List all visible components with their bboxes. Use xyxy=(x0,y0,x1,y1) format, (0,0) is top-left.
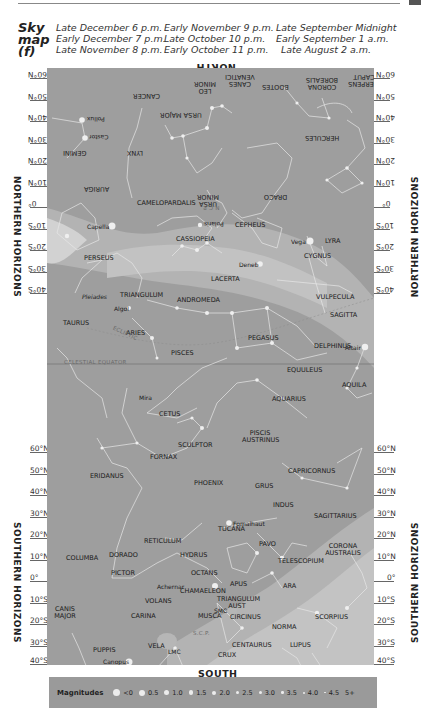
label-altair: Altair xyxy=(345,344,361,351)
star-magnitude-icon xyxy=(303,692,305,694)
star-magnitude-icon xyxy=(189,690,194,695)
label-smc: SMC xyxy=(214,607,227,614)
viewing-time: Late December 6 p.m. xyxy=(56,22,146,33)
tick-label: 0° xyxy=(382,199,391,208)
northern-horizons-right: NORTHERN HORIZONS xyxy=(410,176,420,297)
tick-label: 10°S xyxy=(28,221,46,230)
label-lupus: LUPUS xyxy=(290,642,311,649)
legend-item: 4.0 xyxy=(303,689,318,697)
tick-label: 40°S xyxy=(377,656,395,665)
top-rule xyxy=(18,3,400,4)
tick-label: 40°N xyxy=(28,113,47,122)
viewing-times-column-1: Late December 6 p.m. Early December 7 p.… xyxy=(56,22,146,55)
label-pavo: PAVO xyxy=(259,541,276,548)
legend-value: 3.5 xyxy=(287,689,297,697)
star-magnitude-icon xyxy=(236,691,240,695)
label-scp: S.C.P. xyxy=(193,630,210,636)
label-draco: DRACO xyxy=(264,193,287,200)
legend-value: 1.5 xyxy=(196,689,206,697)
label-tucana: TUCANA xyxy=(218,526,245,533)
label-chamaeleon: CHAMAELEON xyxy=(180,588,226,595)
label-triangulum: TRIANGULUM xyxy=(120,292,163,299)
label-volans: VOLANS xyxy=(145,598,172,605)
legend-value: 0.5 xyxy=(148,689,158,697)
tick-label: 60°N xyxy=(28,70,47,79)
viewing-time: Late November 8 p.m. xyxy=(56,44,146,55)
viewing-time: Late September Midnight xyxy=(276,22,376,33)
label-canis-major: CANIS MAJOR xyxy=(53,606,77,620)
tick-label: 30°S xyxy=(377,638,395,647)
label-capella: Capella xyxy=(87,223,109,230)
label-aquarius: AQUARIUS xyxy=(272,396,306,403)
legend-value: 4.0 xyxy=(308,689,318,697)
tick-label: 30°N xyxy=(377,509,396,518)
viewing-time: Early September 1 a.m. xyxy=(276,33,376,44)
page-corner-tab xyxy=(409,0,421,5)
legend-value: 2.0 xyxy=(219,689,229,697)
label-pegasus: PEGASUS xyxy=(248,335,279,342)
star-vega xyxy=(307,238,314,245)
tick-label: 20°N xyxy=(376,156,395,165)
tick-label: 50°N xyxy=(376,92,395,101)
label-serpens-caput: SERPENS CAPUT xyxy=(350,73,374,87)
tick-label: 0° xyxy=(387,573,396,582)
legend-item: 3.5 xyxy=(281,689,297,697)
tick-label: 10°N xyxy=(377,552,396,561)
magnitude-legend: Magnitudes <0 0.5 1.0 1.5 2.0 2.5 3.0 3.… xyxy=(49,677,377,708)
star-pollux xyxy=(79,117,85,123)
label-hercules: HERCULES xyxy=(305,134,339,141)
tick-label: 30°S xyxy=(376,264,394,273)
label-sagitta: SAGITTA xyxy=(330,312,357,319)
viewing-time: Late August 2 a.m. xyxy=(276,44,376,55)
tick-label: 40°S xyxy=(30,656,48,665)
label-auriga: AURIGA xyxy=(84,185,109,192)
star-magnitude-icon xyxy=(139,690,145,696)
legend-item: 0.5 xyxy=(139,689,158,697)
legend-value: 2.5 xyxy=(242,689,252,697)
label-piscis-austrinus: PISCIS AUSTRINUS xyxy=(242,430,278,444)
star-magnitude-icon xyxy=(212,691,216,695)
star-polaris xyxy=(198,223,202,227)
label-octans: OCTANS xyxy=(191,570,218,577)
tick-label: 60°N xyxy=(377,444,396,453)
label-cygnus: CYGNUS xyxy=(304,253,331,260)
label-dorado: DORADO xyxy=(109,552,138,559)
viewing-times-column-2: Early November 9 p.m. Late October 10 p.… xyxy=(164,22,254,55)
header: Sky map (f) Late December 6 p.m. Early D… xyxy=(0,22,421,67)
tick-label: 50°N xyxy=(377,466,396,475)
star-magnitude-icon xyxy=(164,690,169,695)
label-eridanus: ERIDANUS xyxy=(90,473,124,480)
label-leo-minor: LEO MINOR xyxy=(194,80,216,94)
tick-label: 20°S xyxy=(377,616,395,625)
legend-value: 3.0 xyxy=(265,689,275,697)
legend-item: 2.5 xyxy=(236,689,253,697)
label-circinus: CIRCINUS xyxy=(230,614,261,621)
label-pisces: PISCES xyxy=(171,350,194,357)
label-fomalhaut: Fomalhaut xyxy=(233,520,265,527)
label-crux: CRUX xyxy=(218,652,236,659)
label-cepheus: CEPHEUS xyxy=(235,222,265,229)
label-perseus: PERSEUS xyxy=(84,255,114,262)
label-hydrus: HYDRUS xyxy=(180,552,207,559)
tick-label: 60°N xyxy=(376,70,395,79)
tick-label: 10°S xyxy=(30,595,48,604)
label-polaris: Polaris xyxy=(204,221,224,228)
star-altair xyxy=(362,344,368,350)
label-grus: GRUS xyxy=(255,483,273,490)
label-vulpecula: VULPECULA xyxy=(316,294,354,301)
label-vega: Vega xyxy=(291,238,306,245)
label-columba: COLUMBA xyxy=(66,555,98,562)
label-lacerta: LACERTA xyxy=(211,276,240,283)
label-sculptor: SCULPTOR xyxy=(178,442,213,449)
label-corona-australis: CORONA AUSTRALIS xyxy=(322,543,364,557)
label-apus: APUS xyxy=(230,581,247,588)
map-title: Sky map (f) xyxy=(18,22,50,58)
label-algol: Algol xyxy=(114,305,129,312)
label-canopus: Canopus xyxy=(103,658,129,665)
label-andromeda: ANDROMEDA xyxy=(177,297,220,304)
star-capella xyxy=(109,223,116,230)
label-deneb: Deneb xyxy=(239,261,259,268)
tick-label: 20°S xyxy=(30,616,48,625)
label-bootes: BOOTES xyxy=(262,83,289,90)
sky-map: CANCER LEO MINOR CANES VENATICI BOOTES C… xyxy=(47,68,374,665)
